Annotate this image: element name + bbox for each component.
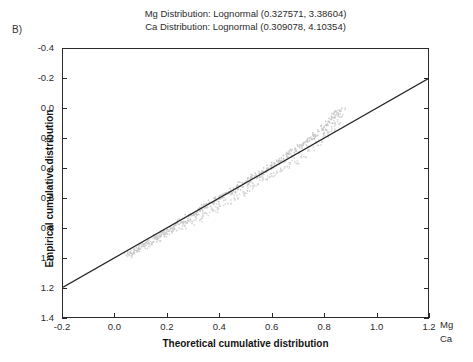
plot-canvas	[63, 49, 428, 317]
x-axis-tick	[429, 313, 430, 318]
y-axis-tick	[62, 198, 67, 199]
chart-title-line-mg: Mg Distribution: Lognormal (0.327571, 3.…	[62, 8, 429, 21]
y-axis-tick	[424, 288, 429, 289]
x-axis-tick	[114, 313, 115, 318]
x-axis-tick	[377, 313, 378, 318]
y-axis-tick	[424, 318, 429, 319]
y-axis-tick	[62, 318, 67, 319]
x-axis-tick	[272, 313, 273, 318]
y-axis-tick	[424, 258, 429, 259]
y-axis-tick	[424, 228, 429, 229]
x-axis-tick-label: -0.2	[42, 322, 82, 332]
series-mg-points	[127, 110, 341, 256]
y-axis-tick	[62, 288, 67, 289]
legend-item-mg: Mg	[440, 318, 453, 332]
legend-item-ca: Ca	[440, 332, 453, 346]
y-axis-tick	[424, 198, 429, 199]
x-axis-tick	[324, 313, 325, 318]
y-axis-label: Empirical cumulative distribution	[44, 54, 55, 324]
x-axis-tick	[167, 313, 168, 318]
x-axis-tick	[62, 313, 63, 318]
y-axis-tick	[62, 228, 67, 229]
x-axis-tick-label: 0.4	[199, 322, 239, 332]
y-axis-tick	[62, 168, 67, 169]
identity-reference-line	[63, 79, 428, 287]
y-axis-tick	[424, 138, 429, 139]
x-axis-label: Theoretical cumulative distribution	[62, 338, 429, 349]
x-axis-tick	[219, 313, 220, 318]
y-axis-tick	[424, 48, 429, 49]
plot-area	[62, 48, 429, 318]
chart-title-line-ca: Ca Distribution: Lognormal (0.309078, 4.…	[62, 21, 429, 34]
y-axis-tick	[62, 48, 67, 49]
y-axis-tick	[424, 168, 429, 169]
y-axis-tick	[424, 108, 429, 109]
x-axis-tick-label: 1.0	[357, 322, 397, 332]
x-axis-tick-label: 0.2	[147, 322, 187, 332]
x-axis-tick-label: 0.8	[304, 322, 344, 332]
panel-label: B)	[12, 24, 22, 35]
y-axis-tick	[62, 258, 67, 259]
y-axis-tick	[424, 78, 429, 79]
y-axis-tick	[62, 108, 67, 109]
x-axis-tick-label: 0.0	[94, 322, 134, 332]
y-axis-tick	[62, 138, 67, 139]
y-axis-tick-label: -0.4	[8, 43, 54, 53]
chart-title: Mg Distribution: Lognormal (0.327571, 3.…	[62, 8, 429, 33]
x-axis-tick-label: 0.6	[252, 322, 292, 332]
y-axis-tick	[62, 78, 67, 79]
legend: Mg Ca	[440, 318, 453, 346]
